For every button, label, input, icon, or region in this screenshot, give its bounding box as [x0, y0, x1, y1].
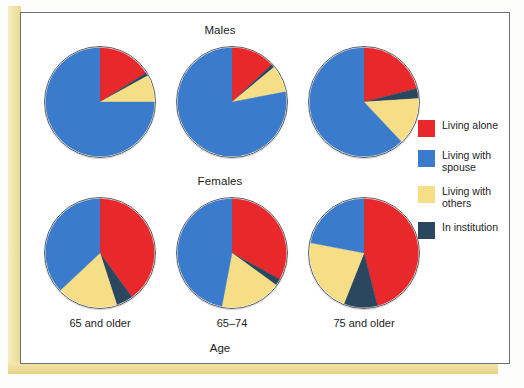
- pie-slices: [44, 46, 156, 158]
- age-group-label-65-74: 65–74: [167, 317, 297, 330]
- pie-females-65-74[interactable]: [176, 197, 288, 309]
- legend-label-living-with-spouse: Living with spouse: [442, 150, 491, 173]
- legend-swatch-living-alone: [418, 120, 435, 137]
- pie-males-65-74[interactable]: [176, 46, 288, 158]
- legend-label-in-institution: In institution: [442, 222, 498, 234]
- panel-title-males: Males: [20, 24, 420, 36]
- panel-title-females: Females: [20, 175, 420, 187]
- pie-slices: [44, 197, 156, 309]
- pie-females-75-and-older[interactable]: [308, 197, 420, 309]
- pie-slices: [308, 197, 420, 309]
- age-group-label-65-and-older: 65 and older: [35, 317, 165, 330]
- legend-label-living-alone: Living alone: [442, 120, 498, 132]
- legend-item-in-institution[interactable]: In institution: [418, 222, 510, 239]
- pie-chart-figure: Males Females: [20, 12, 510, 364]
- pie-slices: [308, 46, 420, 158]
- pie-males-65-and-older[interactable]: [44, 46, 156, 158]
- legend-swatch-living-with-others: [418, 186, 435, 203]
- legend-swatch-in-institution: [418, 222, 435, 239]
- legend-item-living-with-others[interactable]: Living with others: [418, 186, 510, 209]
- pie-slices: [176, 197, 288, 309]
- legend-item-living-with-spouse[interactable]: Living with spouse: [418, 150, 510, 173]
- legend-item-living-alone[interactable]: Living alone: [418, 120, 510, 137]
- legend: Living alone Living with spouse Living w…: [418, 120, 510, 252]
- legend-swatch-living-with-spouse: [418, 150, 435, 167]
- legend-label-living-with-others: Living with others: [442, 186, 491, 209]
- age-group-label-75-and-older: 75 and older: [299, 317, 429, 330]
- axis-label-age: Age: [20, 342, 420, 354]
- pie-males-75-and-older[interactable]: [308, 46, 420, 158]
- pie-slices: [176, 46, 288, 158]
- pie-females-65-and-older[interactable]: [44, 197, 156, 309]
- scanned-page-background: Males Females: [0, 0, 524, 388]
